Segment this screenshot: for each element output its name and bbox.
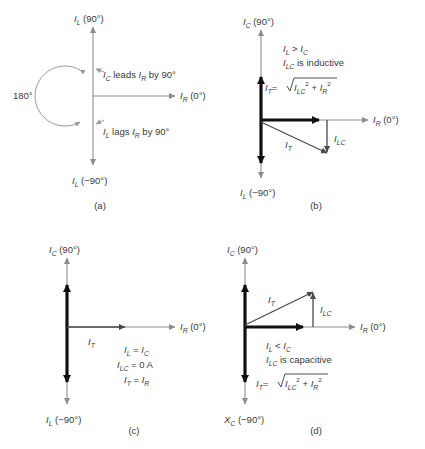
panel-d-vector-it — [245, 292, 313, 325]
panel-b-label-up: IC (90°) — [243, 16, 274, 29]
panel-c-caption: (c) — [128, 425, 139, 436]
panel-d-label-right: IR (0°) — [360, 321, 386, 334]
panel-d-statement: ILC is capacitive — [266, 354, 332, 367]
panel-d-vector-label-it: IT — [268, 294, 276, 307]
panel-a-note-lead: IC leads IR by 90° — [103, 69, 176, 82]
panel-d-relation: IL < IC — [266, 340, 291, 353]
panel-b-vector-it — [261, 122, 327, 153]
panel-b-caption: (b) — [310, 200, 322, 211]
panel-b-statement: ILC is inductive — [283, 57, 344, 70]
panel-d-label-down: XC (−90°) — [223, 414, 264, 427]
svg-text:ILC2 + IR2: ILC2 + IR2 — [294, 80, 331, 95]
panel-a: 180° IL (90°) IL (−90°) IR (0°) IC leads… — [13, 13, 206, 211]
panel-a-note-lag: IL lags IR by 90° — [103, 126, 170, 139]
panel-a-180-arc — [35, 66, 80, 126]
panel-b-formula: IT= ILC2 + IR2 — [265, 78, 337, 95]
panel-c: IC (90°) IL (−90°) IR (0°) IT IL = IC IL… — [46, 244, 206, 436]
panel-a-lag-pointer — [96, 120, 104, 124]
panel-c-label-right: IR (0°) — [180, 321, 206, 334]
svg-text:IT=: IT= — [265, 82, 278, 95]
phasor-diagram-figure: 180° IL (90°) IL (−90°) IR (0°) IC leads… — [0, 0, 425, 449]
panel-a-caption: (a) — [94, 200, 106, 211]
panel-c-equation-3: IT = IR — [124, 374, 149, 387]
panel-d-caption: (d) — [310, 425, 322, 436]
panel-a-arc-label: 180° — [13, 90, 33, 101]
panel-b-label-right: IR (0°) — [373, 114, 399, 127]
svg-text:IT=: IT= — [256, 378, 269, 391]
panel-d: IC (90°) XC (−90°) IR (0°) IT ILC IL < I… — [223, 244, 386, 436]
panel-b-relation: IL > IC — [283, 43, 308, 56]
svg-text:ILC2 + IR2: ILC2 + IR2 — [285, 376, 322, 391]
panel-d-vector-label-ilc: ILC — [320, 304, 331, 317]
panel-b-vector-label-ilc: ILC — [334, 133, 345, 146]
panel-a-label-up: IL (90°) — [74, 13, 104, 26]
panel-b: IC (90°) IL (−90°) IR (0°) IL > IC ILC i… — [240, 16, 399, 211]
panel-c-vector-label-it: IT — [88, 336, 96, 349]
panel-c-label-up: IC (90°) — [49, 244, 80, 257]
panel-c-equation-2: ILC = 0 A — [117, 359, 154, 372]
panel-c-equation-1: IL = IC — [124, 344, 149, 357]
panel-c-label-down: IL (−90°) — [46, 414, 81, 427]
panel-b-label-down: IL (−90°) — [240, 187, 275, 200]
panel-a-label-right: IR (0°) — [180, 90, 206, 103]
panel-d-formula: IT= ILC2 + IR2 — [256, 374, 328, 391]
panel-d-label-up: IC (90°) — [227, 244, 258, 257]
panel-a-label-down: IL (−90°) — [72, 175, 107, 188]
panel-b-vector-label-it: IT — [285, 139, 293, 152]
